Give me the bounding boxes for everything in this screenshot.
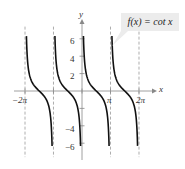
x-axis-arrow-icon (152, 89, 157, 94)
y-tick-label: −6 (65, 142, 75, 152)
x-axis-label: x (159, 84, 163, 94)
y-tick-label: 4 (70, 54, 75, 64)
y-axis-label: y (79, 9, 83, 19)
x-tick-label: 2π (136, 95, 145, 105)
x-tick-label: −2π (12, 95, 27, 105)
y-tick-label: 6 (70, 36, 75, 46)
y-axis-arrow-icon (80, 19, 85, 24)
y-tick-label: 2 (70, 71, 75, 81)
legend-pointer (112, 31, 128, 46)
y-tick-label: −4 (65, 124, 75, 134)
function-label: f(x) = cot x (121, 13, 179, 31)
x-tick-label: π (107, 95, 112, 105)
